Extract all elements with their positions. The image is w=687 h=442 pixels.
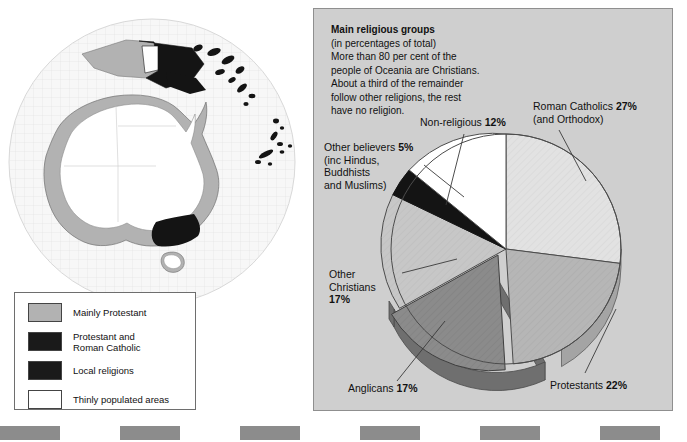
strip-segment [420, 426, 480, 440]
pie-label-other-believers-sub: (inc Hindus, Buddhists and Muslims) [324, 154, 386, 191]
pie-label-roman-catholics: Roman Catholics 27% (and Orthodox) [533, 100, 637, 125]
map-panel: Mainly Protestant Protestant and Roman C… [0, 0, 312, 414]
pie-label-protestants-text: Protestants [550, 379, 606, 391]
legend-label-thinly-populated: Thinly populated areas [73, 394, 169, 405]
legend-item-protestant-roman-catholic: Protestant and Roman Catholic [15, 327, 195, 356]
strip-segment [180, 426, 240, 440]
legend-swatch-thinly-populated [28, 390, 62, 409]
legend-label-protestant-roman-catholic: Protestant and Roman Catholic [73, 331, 141, 353]
pie-value-anglicans: 17% [396, 382, 417, 394]
legend-label-mainly-protestant: Mainly Protestant [73, 307, 146, 318]
landmass-new-zealand-south-black [249, 275, 280, 302]
film-edge-strip [0, 426, 687, 440]
strip-segment [240, 426, 300, 440]
strip-segment [120, 426, 180, 440]
strip-segment [60, 426, 120, 440]
pie-value-non-religious: 12% [485, 116, 506, 128]
strip-segment [480, 426, 540, 440]
landmass-new-zealand-north-black [278, 250, 294, 265]
legend-swatch-protestant-roman-catholic [28, 332, 62, 351]
legend-swatch-local-religions [28, 361, 62, 380]
legend-label-local-religions: Local religions [73, 365, 134, 376]
pie-label-anglicans: Anglicans 17% [348, 382, 417, 395]
pie-chart [314, 9, 674, 412]
pie-chart-panel: Main religious groups (in percentages of… [313, 8, 673, 411]
strip-segment [660, 426, 687, 440]
legend-item-mainly-protestant: Mainly Protestant [15, 298, 195, 327]
pie-value-other-believers: 5% [398, 141, 413, 153]
pie-label-other-believers-text: Other believers [324, 141, 398, 153]
pie-label-other-christians: Other Christians 17% [329, 268, 401, 306]
pie-value-protestants: 22% [606, 379, 627, 391]
pie-label-non-religious-text: Non-religious [420, 116, 485, 128]
strip-segment [300, 426, 360, 440]
pie-value-other-christians: 17% [329, 293, 350, 305]
landmass-newguinea-inset-white [142, 46, 158, 73]
map-legend: Mainly Protestant Protestant and Roman C… [14, 292, 196, 410]
pie-label-other-christians-text: Other Christians [329, 268, 376, 293]
pie-label-roman-catholics-sub: (and Orthodox) [533, 113, 604, 125]
oceania-globe-map [6, 16, 298, 308]
legend-item-thinly-populated: Thinly populated areas [15, 385, 195, 414]
landmass-new-zealand-north [272, 245, 296, 270]
pie-label-protestants: Protestants 22% [550, 379, 627, 392]
strip-segment [360, 426, 420, 440]
pie-slice-roman-catholics [506, 134, 621, 263]
landmass-new-zealand-south [242, 270, 286, 307]
strip-segment [0, 426, 60, 440]
pie-slice-protestants [506, 249, 620, 364]
legend-item-local-religions: Local religions [15, 356, 195, 385]
pie-label-roman-catholics-text: Roman Catholics [533, 100, 616, 112]
strip-segment [600, 426, 660, 440]
pie-value-roman-catholics: 27% [616, 100, 637, 112]
pie-label-other-believers: Other believers 5% (inc Hindus, Buddhist… [324, 141, 429, 191]
strip-segment [540, 426, 600, 440]
pie-label-anglicans-text: Anglicans [348, 382, 396, 394]
figure-root: Mainly Protestant Protestant and Roman C… [0, 0, 687, 418]
pie-label-non-religious: Non-religious 12% [420, 116, 506, 129]
legend-swatch-mainly-protestant [28, 303, 62, 322]
